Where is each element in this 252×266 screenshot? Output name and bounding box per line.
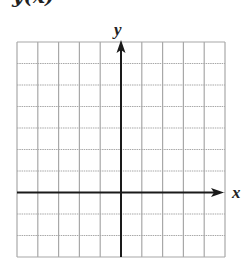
y-axis-label: y [112,20,122,39]
x-axis-label: x [231,183,241,202]
axes [17,40,224,257]
coordinate-grid: x y [0,0,252,266]
